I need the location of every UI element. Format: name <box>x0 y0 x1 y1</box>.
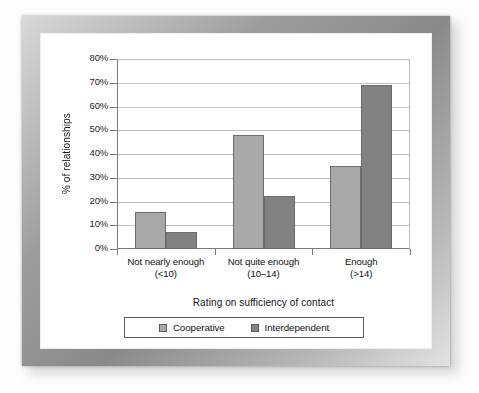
plot-right-border <box>409 59 410 250</box>
legend-label: Cooperative <box>173 322 225 333</box>
x-category-line1: Not nearly enough <box>127 256 204 267</box>
bar-cooperative-0 <box>135 212 166 249</box>
y-tick-70% <box>110 83 117 84</box>
x-tick-1 <box>215 249 216 255</box>
y-tick-30% <box>110 178 117 179</box>
legend-swatch-icon <box>251 324 259 332</box>
y-tick-40% <box>110 154 117 155</box>
y-tick-label-text: 60% <box>90 100 108 111</box>
x-category-label-1: Not quite enough(10–14) <box>215 256 313 279</box>
y-tick-label-text: 20% <box>90 195 108 206</box>
x-axis-title: Rating on sufficiency of contact <box>117 297 410 308</box>
y-tick-20% <box>110 202 117 203</box>
y-tick-label-text: 30% <box>90 171 108 182</box>
y-tick-0% <box>110 249 117 250</box>
y-tick-label-text: 50% <box>90 123 108 134</box>
x-tick-0 <box>117 249 118 255</box>
x-category-label-0: Not nearly enough(<10) <box>117 256 215 279</box>
legend-swatch-icon <box>159 324 167 332</box>
x-category-line2: (>14) <box>312 268 410 280</box>
x-tick-3 <box>410 249 411 255</box>
bar-cooperative-1 <box>233 135 264 249</box>
y-tick-label-text: 0% <box>95 242 108 253</box>
grouped-bar-chart: % of relationships 0%10%20%30%40%50%60%7… <box>0 0 479 393</box>
x-category-line1: Not quite enough <box>228 256 299 267</box>
x-category-line2: (10–14) <box>215 268 313 280</box>
scanned-page: % of relationships 0%10%20%30%40%50%60%7… <box>0 0 479 393</box>
y-tick-label-text: 10% <box>90 218 108 229</box>
bar-interdependent-1 <box>264 196 295 249</box>
legend-item-interdependent: Interdependent <box>251 322 330 333</box>
bar-interdependent-0 <box>166 232 197 249</box>
x-category-line2: (<10) <box>117 268 215 280</box>
y-axis-title: % of relationships <box>61 99 75 209</box>
x-category-line1: Enough <box>345 256 377 267</box>
y-tick-label-text: 80% <box>90 52 108 63</box>
chart-legend: CooperativeInterdependent <box>124 317 364 338</box>
x-category-label-2: Enough(>14) <box>312 256 410 279</box>
y-tick-label-text: 40% <box>90 147 108 158</box>
legend-item-cooperative: Cooperative <box>159 322 225 333</box>
y-tick-80% <box>110 59 117 60</box>
plot-top-border <box>117 59 410 60</box>
legend-label: Interdependent <box>265 322 330 333</box>
y-tick-60% <box>110 107 117 108</box>
bar-cooperative-2 <box>330 166 361 249</box>
x-tick-2 <box>312 249 313 255</box>
bar-interdependent-2 <box>361 85 392 249</box>
y-tick-10% <box>110 225 117 226</box>
y-tick-label-text: 70% <box>90 76 108 87</box>
y-tick-50% <box>110 130 117 131</box>
